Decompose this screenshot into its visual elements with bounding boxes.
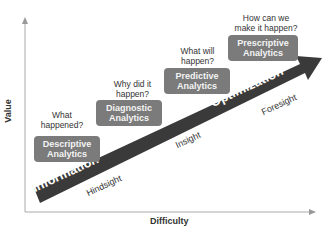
question-line: What will [170, 46, 225, 56]
stage-predictive-analytics: Predictive Analytics [164, 68, 230, 94]
stage-descriptive-analytics: Descriptive Analytics [34, 136, 100, 162]
question-line: happened? [37, 120, 87, 130]
stage-title: Analytics [228, 48, 298, 58]
stage-title: Analytics [164, 81, 230, 91]
question-line: happen? [105, 89, 160, 99]
y-axis-label: Value [3, 99, 13, 123]
y-axis-arrowhead-icon [22, 17, 28, 24]
stage-title: Descriptive [34, 139, 100, 149]
question-line: Why did it [105, 79, 160, 89]
question-line: How can we [226, 13, 306, 23]
question-predictive: What will happen? [170, 46, 225, 66]
question-descriptive: What happened? [37, 110, 87, 130]
x-axis-label: Difficulty [150, 216, 189, 226]
stage-diagnostic-analytics: Diagnostic Analytics [96, 100, 162, 126]
stage-title: Analytics [34, 149, 100, 159]
stage-title: Diagnostic [96, 103, 162, 113]
stage-prescriptive-analytics: Prescriptive Analytics [228, 35, 298, 61]
question-prescriptive: How can we make it happen? [226, 13, 306, 33]
question-line: What [37, 110, 87, 120]
question-line: make it happen? [226, 23, 306, 33]
stage-title: Prescriptive [228, 38, 298, 48]
question-line: happen? [170, 56, 225, 66]
question-diagnostic: Why did it happen? [105, 79, 160, 99]
x-axis-arrowhead-icon [309, 209, 316, 215]
stage-title: Analytics [96, 113, 162, 123]
stage-title: Predictive [164, 71, 230, 81]
